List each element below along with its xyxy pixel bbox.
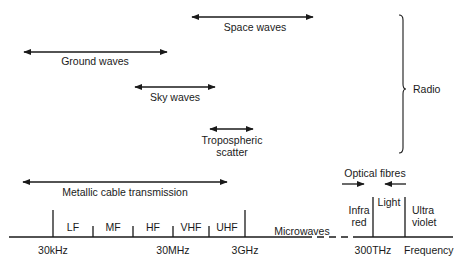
tropospheric-label-line2: scatter xyxy=(190,146,274,158)
frequency-axis-label: Frequency xyxy=(404,244,454,256)
tick-label-3ghz: 3GHz xyxy=(225,244,265,256)
optical-fibres-label: Optical fibres xyxy=(335,167,415,179)
tick-label-30khz: 30kHz xyxy=(28,244,78,256)
band-ultraviolet-line1: Ultra xyxy=(412,204,434,216)
band-infrared-line2: red xyxy=(346,216,372,228)
tropospheric-label-line1: Tropospheric xyxy=(190,134,274,146)
space-waves-label: Space waves xyxy=(200,21,310,33)
ground-waves-label: Ground waves xyxy=(40,55,150,67)
band-light: Light xyxy=(373,196,405,208)
tick-label-30mhz: 30MHz xyxy=(148,244,198,256)
tick-label-300thz: 300THz xyxy=(348,244,398,256)
band-microwaves: Microwaves xyxy=(262,225,342,237)
sky-waves-label: Sky waves xyxy=(130,91,220,103)
band-infrared-line1: Infra xyxy=(346,204,372,216)
radio-label: Radio xyxy=(413,83,440,95)
metallic-cable-label: Metallic cable transmission xyxy=(40,186,210,198)
radio-brace xyxy=(399,15,406,153)
band-uhf: UHF xyxy=(209,221,245,233)
band-ultraviolet-line2: violet xyxy=(412,216,437,228)
band-vhf: VHF xyxy=(173,221,209,233)
band-hf: HF xyxy=(133,221,173,233)
band-mf: MF xyxy=(93,221,133,233)
band-lf: LF xyxy=(53,221,93,233)
